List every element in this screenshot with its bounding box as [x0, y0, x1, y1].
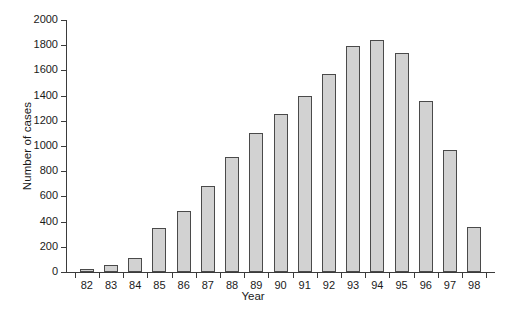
x-tick-mark: [75, 273, 76, 278]
x-tick-mark: [99, 273, 100, 278]
x-tick-mark: [438, 273, 439, 278]
x-tick-label-96: 96: [413, 279, 439, 291]
bar-96: [419, 101, 433, 272]
x-tick-mark: [293, 273, 294, 278]
y-tick-label: 1600: [34, 63, 58, 75]
bar-90: [274, 114, 288, 272]
bar-98: [467, 227, 481, 272]
bar-82: [80, 269, 94, 272]
x-tick-mark: [462, 273, 463, 278]
y-tick-mark: [61, 196, 66, 197]
x-tick-mark: [123, 273, 124, 278]
y-tick-mark: [61, 45, 66, 46]
bar-86: [177, 211, 191, 272]
bar-87: [201, 186, 215, 272]
x-tick-label-93: 93: [340, 279, 366, 291]
bar-88: [225, 157, 239, 272]
y-tick-mark: [61, 96, 66, 97]
x-tick-label-84: 84: [122, 279, 148, 291]
bar-95: [395, 53, 409, 272]
x-tick-label-90: 90: [268, 279, 294, 291]
y-axis-title: Number of cases: [21, 66, 33, 226]
y-tick-label: 1800: [34, 38, 58, 50]
x-tick-mark: [317, 273, 318, 278]
x-tick-label-92: 92: [316, 279, 342, 291]
x-axis-line: [66, 272, 495, 273]
y-axis-line: [66, 20, 67, 273]
x-tick-mark: [196, 273, 197, 278]
x-axis-title: Year: [0, 290, 506, 302]
x-tick-label-83: 83: [98, 279, 124, 291]
y-tick-label: 1200: [34, 114, 58, 126]
plot-area: 0200400600800100012001400160018002000 82…: [66, 20, 495, 272]
x-tick-mark: [341, 273, 342, 278]
y-tick-mark: [61, 121, 66, 122]
y-tick-label: 1400: [34, 89, 58, 101]
x-tick-label-87: 87: [195, 279, 221, 291]
x-tick-mark: [220, 273, 221, 278]
x-tick-mark: [268, 273, 269, 278]
bar-85: [152, 228, 166, 272]
bar-92: [322, 74, 336, 272]
x-tick-mark: [486, 273, 487, 278]
bar-83: [104, 265, 118, 272]
x-tick-mark: [365, 273, 366, 278]
x-tick-label-98: 98: [461, 279, 487, 291]
x-tick-mark: [414, 273, 415, 278]
y-tick-label: 0: [52, 265, 58, 277]
bar-chart: Number of cases Year 0200400600800100012…: [0, 0, 506, 314]
y-tick-mark: [61, 247, 66, 248]
bar-93: [346, 46, 360, 272]
x-tick-label-89: 89: [243, 279, 269, 291]
y-tick-mark: [61, 222, 66, 223]
y-tick-label: 800: [40, 164, 58, 176]
x-tick-label-85: 85: [146, 279, 172, 291]
y-tick-mark: [61, 171, 66, 172]
x-tick-label-95: 95: [389, 279, 415, 291]
y-tick-label: 2000: [34, 13, 58, 25]
x-tick-mark: [147, 273, 148, 278]
y-tick-label: 400: [40, 215, 58, 227]
y-tick-mark: [61, 20, 66, 21]
y-tick-label: 200: [40, 240, 58, 252]
bar-89: [249, 133, 263, 272]
bar-97: [443, 150, 457, 272]
bar-84: [128, 258, 142, 272]
y-tick-mark: [61, 272, 66, 273]
x-tick-label-88: 88: [219, 279, 245, 291]
y-tick-mark: [61, 146, 66, 147]
y-tick-mark: [61, 70, 66, 71]
x-tick-label-94: 94: [364, 279, 390, 291]
y-tick-label: 600: [40, 189, 58, 201]
x-tick-label-86: 86: [171, 279, 197, 291]
x-tick-mark: [172, 273, 173, 278]
x-tick-label-97: 97: [437, 279, 463, 291]
bar-94: [370, 40, 384, 272]
x-tick-mark: [389, 273, 390, 278]
x-tick-label-82: 82: [74, 279, 100, 291]
bar-91: [298, 96, 312, 272]
x-tick-mark: [244, 273, 245, 278]
x-tick-label-91: 91: [292, 279, 318, 291]
y-tick-label: 1000: [34, 139, 58, 151]
